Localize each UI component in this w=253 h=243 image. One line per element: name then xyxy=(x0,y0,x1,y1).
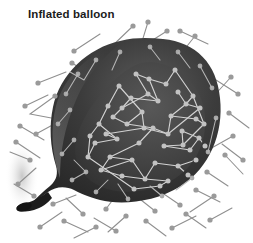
balloon-illustration xyxy=(0,0,253,243)
balloon-svg xyxy=(0,0,253,243)
